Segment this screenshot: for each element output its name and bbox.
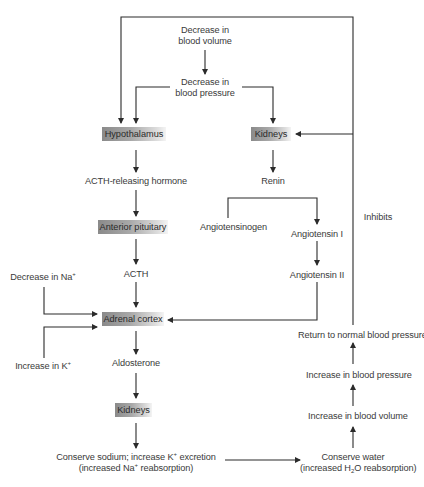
node-line: (increased H2O reabsorption): [300, 463, 406, 474]
node-renin: Renin: [253, 176, 293, 187]
node-angiotensin-2: Angiotensin II: [284, 270, 350, 281]
node-increase-bp: Increase in blood pressure: [306, 370, 402, 381]
node-conserve-sodium: Conserve sodium; increase K+ excretion (…: [56, 452, 216, 474]
node-aldosterone: Aldosterone: [106, 358, 166, 369]
node-increase-k: Increase in K+: [10, 361, 76, 372]
node-acth: ACTH: [116, 269, 156, 280]
node-text: (increased Na: [79, 463, 135, 473]
node-inhibits: Inhibits: [358, 212, 398, 223]
node-decrease-blood-pressure: Decrease in blood pressure: [165, 77, 245, 99]
superscript: +: [72, 271, 75, 277]
node-line: Decrease in: [165, 77, 245, 88]
node-line: Decrease in: [165, 25, 245, 36]
box-adrenal-cortex: Adrenal cortex: [102, 312, 164, 326]
node-text: (increased H: [300, 463, 351, 473]
node-increase-bv: Increase in blood volume: [308, 411, 400, 422]
node-angiotensin-1: Angiotensin I: [287, 229, 347, 240]
node-text: reabsorption): [138, 463, 193, 473]
superscript: +: [67, 360, 70, 366]
node-text: excretion: [177, 452, 216, 462]
node-line: blood volume: [165, 36, 245, 47]
node-line: Conserve water: [300, 452, 406, 463]
box-anterior-pituitary: Anterior pituitary: [98, 220, 168, 234]
node-line: (increased Na+ reabsorption): [56, 463, 216, 474]
node-text: Decrease in Na: [10, 272, 72, 282]
node-text: Conserve sodium; increase K: [56, 452, 173, 462]
box-kidneys-top: Kidneys: [251, 127, 291, 141]
node-text: O reabsorption): [354, 463, 416, 473]
node-acth-releasing-hormone: ACTH-releasing hormone: [76, 176, 196, 187]
node-return-normal-bp: Return to normal blood pressure: [298, 330, 410, 341]
node-conserve-water: Conserve water (increased H2O reabsorpti…: [300, 452, 406, 474]
node-angiotensinogen: Angiotensinogen: [200, 222, 260, 233]
node-text: Increase in K: [15, 361, 67, 371]
node-decrease-na: Decrease in Na+: [8, 272, 78, 283]
node-line: blood pressure: [165, 88, 245, 99]
box-hypothalamus: Hypothalamus: [102, 127, 166, 141]
node-decrease-blood-volume: Decrease in blood volume: [165, 25, 245, 47]
box-kidneys-bottom: Kidneys: [115, 403, 152, 417]
